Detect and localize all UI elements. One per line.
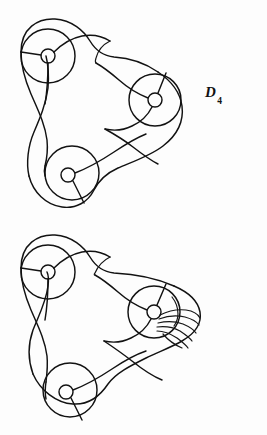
figure-page: D4 (0, 0, 267, 435)
disk-upper-left-d4 (21, 29, 110, 104)
diagonal-link-strand-d4 (105, 129, 158, 164)
outer-boundary-curve-d5 (21, 235, 200, 404)
figure-label-d4: D4 (205, 84, 221, 103)
disk-upper-left-d5 (21, 245, 110, 320)
left-crossing-strands-d5 (21, 268, 48, 399)
diagram-d5-canvas (0, 218, 267, 435)
diagram-d4-canvas (0, 0, 267, 218)
diagram-d4: D4 (0, 0, 267, 218)
diagram-d5: D5 (0, 218, 267, 435)
disk-right-d4 (96, 63, 181, 130)
figure-label-d4-base: D (205, 84, 216, 100)
inner-arc-detail-d4 (95, 41, 110, 63)
diagonal-link-strand-d5 (104, 341, 162, 380)
figure-label-d4-subscript: 4 (217, 96, 222, 106)
disk-lower-left-d5 (43, 351, 146, 420)
disk-lower-left-d4 (45, 134, 146, 203)
disk-right-d5 (95, 275, 180, 342)
